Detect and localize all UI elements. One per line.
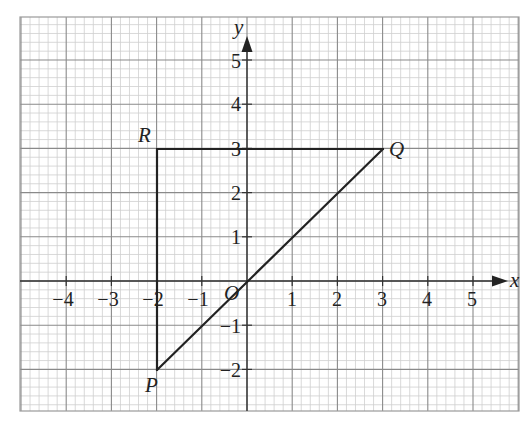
x-tick-label: 3: [377, 288, 387, 310]
point-label-r: R: [137, 123, 151, 147]
triangle-pqr: [157, 149, 383, 370]
minor-grid: [20, 17, 519, 411]
x-axis-label: x: [509, 268, 520, 292]
tick-marks: [66, 60, 473, 369]
x-tick-label: −2: [142, 288, 163, 310]
point-label-q: Q: [389, 137, 404, 161]
segment-pq: [157, 149, 383, 370]
x-tick-label: −4: [52, 288, 73, 310]
y-tick-label: 1: [231, 226, 241, 248]
y-tick-label: 2: [231, 182, 241, 204]
point-label-p: P: [144, 373, 158, 397]
x-tick-label: 1: [287, 288, 297, 310]
x-tick-label: 5: [467, 288, 477, 310]
coordinate-grid-figure: x y −4 −3 −2 −1 1 2 3 4 5 5 4 3 2 1 −1 −…: [0, 0, 522, 422]
y-tick-label: −1: [220, 315, 241, 337]
x-tick-label: 2: [332, 288, 342, 310]
y-tick-label: 4: [231, 93, 241, 115]
y-tick-label: −2: [220, 359, 241, 381]
x-tick-label: 4: [422, 288, 432, 310]
y-tick-label: 5: [231, 50, 241, 72]
y-axis-label: y: [232, 15, 244, 39]
x-tick-label: −3: [97, 288, 118, 310]
x-tick-label: −1: [187, 288, 208, 310]
